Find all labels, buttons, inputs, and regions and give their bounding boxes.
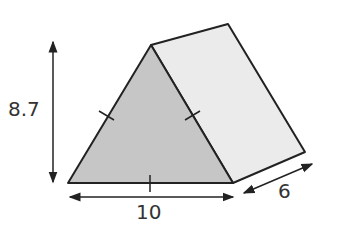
height-label: 8.7 bbox=[8, 97, 40, 121]
base-label: 10 bbox=[136, 200, 161, 224]
depth-label: 6 bbox=[278, 179, 291, 203]
prism-diagram: 8.7 10 6 bbox=[0, 0, 337, 238]
